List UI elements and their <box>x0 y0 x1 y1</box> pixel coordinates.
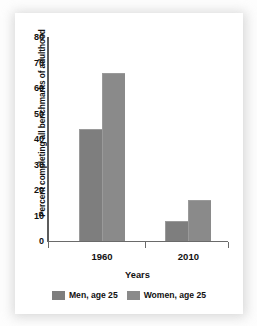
plot-area: Percent completing all benchmarks of adu… <box>15 13 243 314</box>
x-axis-line <box>47 241 228 242</box>
x-axis-tick <box>228 242 229 248</box>
bar-2010-men[interactable] <box>165 221 188 241</box>
y-tick-label: 50 <box>26 109 44 119</box>
x-axis-title: Years <box>47 270 228 280</box>
y-tick-label: 40 <box>26 134 44 144</box>
bar-2010-women[interactable] <box>188 200 211 241</box>
y-tick-label: 80 <box>26 32 44 42</box>
y-tick-label: 20 <box>26 185 44 195</box>
y-tick-label: 10 <box>26 211 44 221</box>
legend-swatch-icon <box>127 291 140 300</box>
legend-swatch-icon <box>52 291 65 300</box>
chart-page: Percent completing all benchmarks of adu… <box>0 0 257 326</box>
bar-1960-men[interactable] <box>79 129 102 241</box>
y-tick-label: 60 <box>26 83 44 93</box>
x-axis-tick <box>145 242 146 248</box>
chart-card: Percent completing all benchmarks of adu… <box>15 13 243 314</box>
chart-legend: Men, age 25Women, age 25 <box>15 290 243 300</box>
x-group-label-2010: 2010 <box>178 251 199 262</box>
y-tick-label: 70 <box>26 58 44 68</box>
bar-series-container <box>48 37 228 241</box>
x-axis-tick <box>48 242 49 248</box>
legend-entry-men[interactable]: Men, age 25 <box>52 290 118 300</box>
legend-label: Women, age 25 <box>144 290 206 300</box>
y-tick-label: 0 <box>26 236 44 246</box>
bar-1960-women[interactable] <box>102 73 125 241</box>
legend-entry-women[interactable]: Women, age 25 <box>127 290 206 300</box>
legend-label: Men, age 25 <box>69 290 118 300</box>
x-group-label-1960: 1960 <box>91 251 112 262</box>
y-tick-label: 30 <box>26 160 44 170</box>
y-axis-tick-labels: 01020304050607080 <box>26 13 44 314</box>
